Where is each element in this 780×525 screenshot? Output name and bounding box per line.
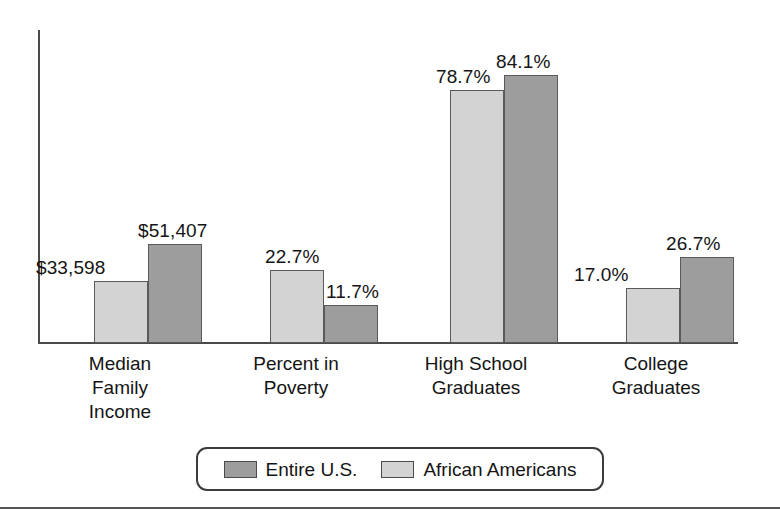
legend-swatch-icon-entire-us (224, 461, 257, 478)
legend-label-entire-us: Entire U.S. (266, 460, 358, 479)
bar-group-percent-in-poverty: 22.7% 11.7% (270, 30, 378, 343)
bar-value-entire-us-0: $51,407 (138, 221, 207, 240)
category-label-percent-in-poverty: Percent in Poverty (216, 352, 376, 400)
chart-legend: Entire U.S. African Americans (196, 447, 604, 491)
bar-group-college-graduates: 17.0% 26.7% (626, 30, 734, 343)
bottom-divider (0, 507, 780, 509)
bar-group-median-family-income: $33,598 $51,407 (94, 30, 202, 343)
bar-chart-figure: $33,598 $51,407 22.7% 11.7% 78.7% 84.1% … (0, 0, 780, 525)
bar-entire-us-2 (504, 75, 558, 343)
bar-value-african-americans-3: 17.0% (574, 265, 628, 284)
bar-value-entire-us-2: 84.1% (496, 52, 550, 71)
bar-value-african-americans-1: 22.7% (265, 247, 319, 266)
bar-group-high-school-graduates: 78.7% 84.1% (450, 30, 558, 343)
bar-entire-us-1 (324, 305, 378, 343)
bar-value-african-americans-2: 78.7% (436, 67, 490, 86)
bar-african-americans-2 (450, 90, 504, 343)
bar-value-entire-us-1: 11.7% (326, 282, 379, 301)
category-label-college-graduates: College Graduates (570, 352, 742, 400)
bar-african-americans-0 (94, 281, 148, 343)
legend-swatch-icon-african-americans (381, 461, 414, 478)
bar-african-americans-1 (270, 270, 324, 343)
bar-value-entire-us-3: 26.7% (666, 234, 720, 253)
legend-label-african-americans: African Americans (423, 460, 576, 479)
legend-item-entire-us: Entire U.S. (224, 460, 358, 479)
legend-item-african-americans: African Americans (381, 460, 576, 479)
category-label-median-family-income: Median Family Income (40, 352, 200, 424)
bar-entire-us-3 (680, 257, 734, 343)
bar-entire-us-0 (148, 244, 202, 343)
plot-area: $33,598 $51,407 22.7% 11.7% 78.7% 84.1% … (38, 30, 738, 343)
bar-value-african-americans-0: $33,598 (36, 258, 105, 277)
category-label-high-school-graduates: High School Graduates (390, 352, 562, 400)
bar-african-americans-3 (626, 288, 680, 343)
